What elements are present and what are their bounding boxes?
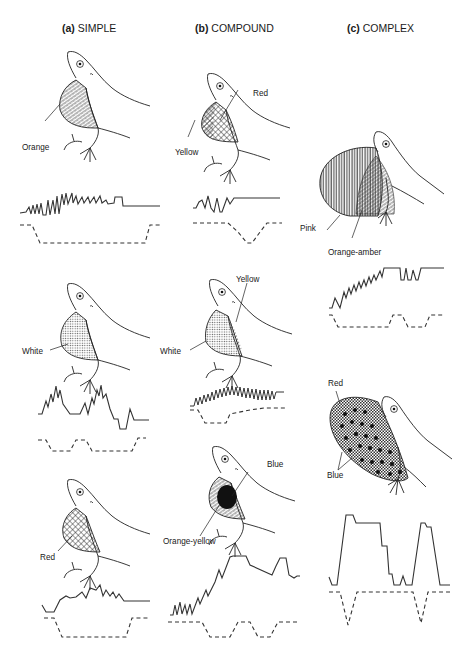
display-trace-a3 — [42, 585, 150, 612]
figure-canvas: Orange White Red Red Yellow — [0, 0, 469, 656]
dewlap-trace-b1 — [193, 223, 282, 243]
dewlap-trace-c1 — [329, 315, 444, 327]
dewlap-trace-b3 — [168, 622, 300, 637]
label-red-b: Red — [253, 89, 268, 98]
display-trace-b1 — [193, 196, 280, 212]
label-orange-amber: Orange-amber — [328, 248, 382, 257]
dewlap-trace-b2 — [190, 408, 285, 423]
dewlap-white — [61, 312, 98, 360]
label-yellow-b: Yellow — [175, 148, 198, 157]
label-blue-c: Blue — [327, 471, 344, 480]
dewlap-trace-c2 — [329, 592, 450, 625]
dewlap-white-b — [205, 310, 242, 356]
dewlap-red — [63, 508, 100, 552]
display-trace-a2 — [38, 385, 149, 429]
dewlap-red-blue — [330, 397, 408, 481]
panel-b2-lizard — [205, 279, 292, 390]
label-orange: Orange — [22, 143, 50, 152]
display-trace-a1 — [20, 193, 160, 215]
dewlap-trace-a1 — [20, 225, 160, 243]
label-white: White — [22, 347, 43, 356]
panel-a2-lizard — [61, 283, 150, 394]
label-yellow-b2: Yellow — [236, 275, 259, 284]
label-blue: Blue — [267, 460, 284, 469]
dewlap-blue-spot — [217, 485, 237, 509]
display-trace-c1 — [329, 268, 444, 308]
label-red-c: Red — [328, 379, 343, 388]
display-trace-b3 — [170, 556, 300, 615]
panel-b1-lizard — [202, 73, 290, 184]
panel-a1-lizard — [60, 51, 150, 162]
label-white-b2: White — [160, 347, 181, 356]
dewlap-trace-a3 — [44, 618, 150, 637]
display-trace-b2 — [190, 386, 284, 406]
display-trace-c2 — [329, 515, 450, 585]
panel-a3-lizard — [63, 479, 150, 590]
label-orange-yellow: Orange-yellow — [163, 537, 216, 546]
label-red: Red — [40, 553, 55, 562]
dewlap-orange — [60, 80, 98, 128]
label-pink: Pink — [300, 224, 317, 233]
dewlap-trace-a2 — [38, 438, 146, 451]
